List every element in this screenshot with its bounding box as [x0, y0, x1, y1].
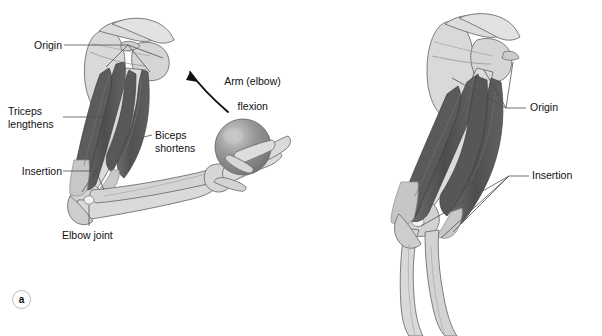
label-triceps-text: Triceps lengthens	[8, 105, 54, 130]
ball-highlight	[223, 128, 243, 144]
radius-b	[425, 230, 457, 336]
label-biceps-shortens: Biceps shortens	[155, 129, 215, 154]
label-arm-flexion-line2: flexion	[238, 100, 268, 112]
label-origin-b: Origin	[530, 101, 590, 114]
panel-a-flexed-arm: Origin Triceps lengthens Insertion Bicep…	[0, 0, 301, 336]
panel-b-illustration	[301, 0, 602, 336]
label-origin-a: Origin	[4, 39, 62, 52]
anatomy-figure: Origin Triceps lengthens Insertion Bicep…	[0, 0, 602, 336]
elbow-joint-space	[84, 196, 94, 204]
label-biceps-text: Biceps shortens	[155, 129, 195, 154]
panel-marker-a: a	[12, 290, 31, 309]
label-triceps-lengthens: Triceps lengthens	[8, 105, 72, 130]
panel-b-extended-arm: Origin Insertion b	[301, 0, 602, 336]
label-insertion-a: Insertion	[2, 165, 62, 178]
label-insertion-b: Insertion	[532, 169, 596, 182]
label-arm-flexion-line1: Arm (elbow)	[224, 75, 281, 87]
label-arm-flexion: Arm (elbow) flexion	[203, 62, 285, 125]
triceps-tendon	[70, 160, 90, 196]
coracoid-process-b	[502, 51, 519, 60]
label-elbow-joint: Elbow joint	[62, 229, 142, 242]
